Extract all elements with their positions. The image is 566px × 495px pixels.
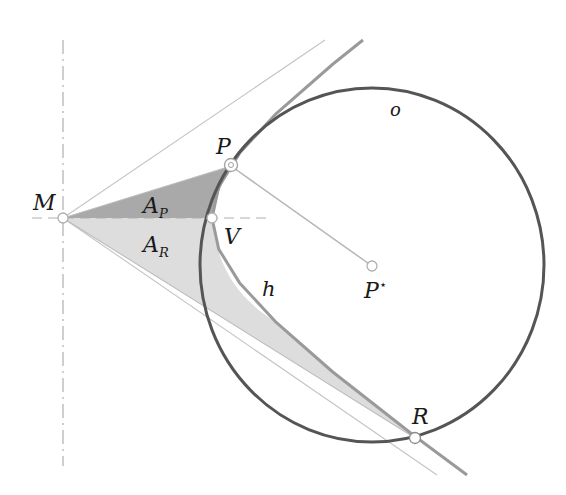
point-v[interactable] — [207, 213, 217, 223]
point-pstar[interactable] — [367, 261, 377, 271]
label-pstar-sup: ⋆ — [379, 277, 387, 292]
label-a-p-sub: P — [158, 206, 168, 221]
label-a-r-sub: R — [158, 245, 169, 260]
label-h: h — [262, 277, 276, 301]
point-p-inner — [229, 163, 234, 168]
label-a-r-main: A — [141, 232, 159, 257]
line-m-r — [63, 218, 415, 438]
diagram-canvas: M P V P⋆ R o h AP AR — [0, 0, 566, 495]
lower-asymptote-line — [63, 218, 437, 475]
segment-p-pstar — [231, 166, 372, 266]
label-a-p-main: A — [141, 193, 159, 218]
label-p: P — [215, 134, 232, 159]
label-v: V — [224, 224, 242, 249]
point-m[interactable] — [58, 213, 68, 223]
hyperbola-h — [212, 40, 467, 475]
label-o: o — [390, 99, 401, 120]
label-pstar: P⋆ — [363, 277, 387, 303]
label-r: R — [411, 404, 429, 429]
label-pstar-main: P — [363, 278, 380, 303]
point-r[interactable] — [410, 433, 421, 444]
label-m: M — [32, 190, 56, 215]
